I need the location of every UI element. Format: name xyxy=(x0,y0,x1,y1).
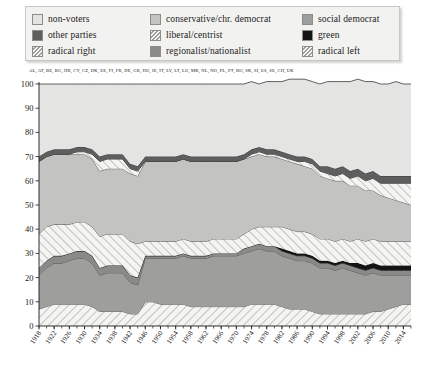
legend-label: radical left xyxy=(318,46,360,56)
y-axis-tick-label: 40 xyxy=(25,224,34,234)
country-code-list: AL, AT, BE, BG, HR, CY, CZ, DK, EE, FI, … xyxy=(29,68,294,73)
x-axis-tick-label: 1946 xyxy=(135,329,150,345)
chart-figure: non-votersconservative/chr. democratsoci… xyxy=(0,0,425,367)
y-axis-tick-label: 20 xyxy=(25,273,34,283)
legend-item-green: green xyxy=(302,30,393,41)
x-axis-tick-label: 1942 xyxy=(120,329,135,345)
legend-label: radical right xyxy=(48,46,95,56)
legend-swatch-other-parties xyxy=(32,30,43,41)
legend-label: social democrat xyxy=(318,14,379,24)
legend-label: liberal/centrist xyxy=(166,30,222,40)
y-axis-tick-label: 60 xyxy=(25,176,34,186)
legend-swatch-liberal xyxy=(150,30,161,41)
legend-swatch-green xyxy=(302,30,313,41)
x-axis-tick-label: 1954 xyxy=(165,329,180,345)
x-axis-tick-label: 1990 xyxy=(302,329,317,345)
chart-svg: 0102030405060708090100191819221926193019… xyxy=(0,76,425,361)
x-axis-tick-label: 1966 xyxy=(211,329,226,345)
x-axis-tick-label: 1938 xyxy=(104,329,119,345)
x-axis-tick-label: 1982 xyxy=(271,329,286,345)
legend-swatch-social-democrat xyxy=(302,14,313,25)
legend-label: non-voters xyxy=(48,14,90,24)
x-axis-tick-label: 1970 xyxy=(226,329,241,345)
legend-label: regionalist/nationalist xyxy=(166,46,251,56)
legend-item-radical-right: radical right xyxy=(32,46,150,57)
x-axis-tick-label: 1926 xyxy=(59,329,74,345)
y-axis-tick-label: 70 xyxy=(25,152,34,162)
chart-legend: non-votersconservative/chr. democratsoci… xyxy=(25,6,400,61)
x-axis-tick-label: 1930 xyxy=(74,329,89,345)
legend-grid: non-votersconservative/chr. democratsoci… xyxy=(32,11,393,59)
legend-label: conservative/chr. democrat xyxy=(166,14,271,24)
legend-label: green xyxy=(318,30,340,40)
legend-item-social-democrat: social democrat xyxy=(302,14,393,25)
legend-item-liberal: liberal/centrist xyxy=(150,30,302,41)
y-axis-tick-label: 50 xyxy=(25,200,34,210)
x-axis-tick-label: 2010 xyxy=(378,329,393,345)
plot-areas xyxy=(39,79,411,326)
y-axis-tick-label: 30 xyxy=(25,248,34,258)
legend-swatch-conservative xyxy=(150,14,161,25)
x-axis-tick-label: 1986 xyxy=(287,329,302,345)
legend-swatch-radical-right xyxy=(32,46,43,57)
legend-item-conservative: conservative/chr. democrat xyxy=(150,14,302,25)
x-axis-tick-label: 2006 xyxy=(363,329,378,345)
x-axis-tick-label: 1974 xyxy=(241,329,256,345)
legend-item-other-parties: other parties xyxy=(32,30,150,41)
x-axis-tick-label: 2002 xyxy=(347,329,362,345)
y-axis-tick-label: 100 xyxy=(21,79,34,89)
legend-item-regionalist: regionalist/nationalist xyxy=(150,46,302,57)
x-axis-tick-label: 2014 xyxy=(393,329,408,345)
y-axis-tick-label: 90 xyxy=(25,103,34,113)
legend-swatch-non-voters xyxy=(32,14,43,25)
legend-swatch-regionalist xyxy=(150,46,161,57)
y-axis-tick-label: 10 xyxy=(25,297,34,307)
x-axis-tick-label: 1998 xyxy=(332,329,347,345)
legend-item-non-voters: non-voters xyxy=(32,14,150,25)
x-axis-tick-label: 1922 xyxy=(44,329,59,345)
x-axis-tick-label: 1994 xyxy=(317,329,332,345)
y-axis-tick-label: 80 xyxy=(25,127,34,137)
x-axis-tick-label: 1950 xyxy=(150,329,165,345)
y-axis-tick-label: 0 xyxy=(29,321,33,331)
x-axis-tick-label: 1958 xyxy=(180,329,195,345)
stacked-area-chart: 0102030405060708090100191819221926193019… xyxy=(0,76,425,361)
legend-item-radical-left: radical left xyxy=(302,46,393,57)
x-axis-tick-label: 1978 xyxy=(256,329,271,345)
legend-label: other parties xyxy=(48,30,97,40)
x-axis-tick-label: 1918 xyxy=(29,329,44,345)
x-axis-tick-label: 1962 xyxy=(196,329,211,345)
legend-swatch-radical-left xyxy=(302,46,313,57)
x-axis-tick-label: 1934 xyxy=(89,329,104,345)
